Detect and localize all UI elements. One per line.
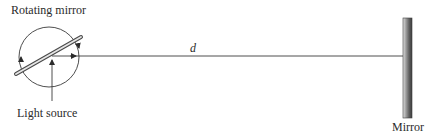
distance-label: d [190, 42, 196, 54]
light-source-label: Light source [17, 107, 77, 119]
rotating-mirror-bar [16, 37, 81, 74]
rotation-arrow-right-icon [78, 44, 79, 48]
fixed-mirror [403, 18, 412, 118]
rotating-mirror-label: Rotating mirror [11, 4, 86, 16]
mirror-label: Mirror [392, 121, 424, 133]
speed-of-light-apparatus-diagram: Rotating mirror Light source d Mirror [0, 0, 436, 137]
